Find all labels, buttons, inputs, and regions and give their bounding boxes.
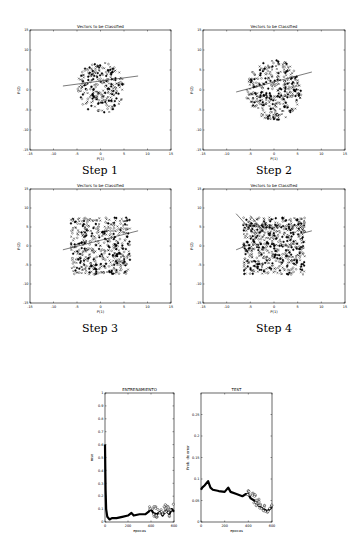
x-axis-label: epocas <box>230 529 243 533</box>
y-tick-label: 0.2 <box>194 434 199 438</box>
caption-step-3: Step 3 <box>60 322 140 335</box>
caption-step-4: Step 4 <box>234 322 314 335</box>
y-tick-label: 0.25 <box>192 413 200 417</box>
y-tick-label: 0.05 <box>192 499 200 503</box>
x-tick-label: 600 <box>269 524 275 528</box>
series-line <box>201 481 272 511</box>
chart-svg: 020040060000.050.10.150.20.25TESTepocasP… <box>0 0 362 549</box>
line-panel-test: 020040060000.050.10.150.20.25TESTepocasP… <box>0 0 362 549</box>
caption-step-2: Step 2 <box>234 164 314 177</box>
x-tick-label: 200 <box>221 524 227 528</box>
y-tick-label: 0.1 <box>194 477 199 481</box>
x-tick-label: 400 <box>245 524 251 528</box>
axes-frame <box>201 393 272 522</box>
y-axis-label: Prob. de error <box>186 445 190 470</box>
x-tick-label: 0 <box>200 524 202 528</box>
chart-title: TEST <box>231 387 243 392</box>
caption-step-1: Step 1 <box>60 164 140 177</box>
y-tick-label: 0.15 <box>192 456 200 460</box>
y-tick-label: 0 <box>197 520 199 524</box>
